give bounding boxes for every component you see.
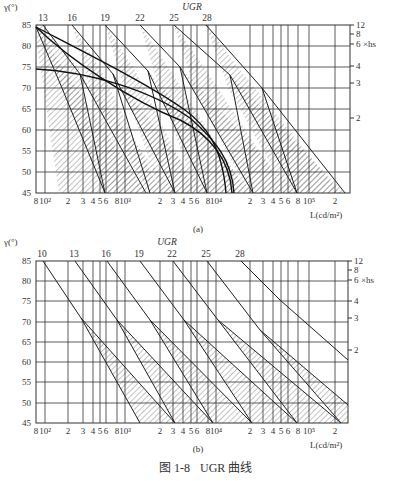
- svg-text:4: 4: [181, 196, 186, 206]
- svg-text:6: 6: [354, 275, 359, 285]
- svg-text:80: 80: [22, 41, 32, 51]
- right-axis-b: 12 8 6 ×hs 4 3 2: [348, 256, 375, 355]
- svg-text:3: 3: [81, 196, 86, 206]
- svg-text:2: 2: [66, 196, 71, 206]
- figure-caption: 图 1-8 UGR 曲线: [159, 461, 252, 475]
- panel-label-a: (a): [193, 224, 203, 234]
- svg-text:3: 3: [261, 196, 266, 206]
- svg-text:2: 2: [356, 113, 361, 123]
- svg-text:60: 60: [22, 357, 32, 367]
- svg-text:2: 2: [248, 196, 253, 206]
- svg-text:3: 3: [171, 196, 176, 206]
- ugr-label: 16: [67, 13, 77, 23]
- svg-text:45: 45: [22, 418, 32, 428]
- svg-text:4: 4: [91, 426, 96, 436]
- svg-text:10³: 10³: [119, 426, 131, 436]
- svg-text:5: 5: [279, 426, 284, 436]
- svg-text:55: 55: [22, 146, 32, 156]
- svg-text:5: 5: [279, 196, 284, 206]
- right-axis-label: ×hs: [363, 39, 377, 49]
- svg-text:10²: 10²: [39, 196, 51, 206]
- svg-text:45: 45: [22, 188, 32, 198]
- ugr-axis-label: UGR: [182, 2, 202, 12]
- ugr-label: 19: [100, 13, 110, 23]
- svg-text:65: 65: [22, 337, 32, 347]
- svg-text:6: 6: [286, 196, 291, 206]
- svg-text:4: 4: [356, 61, 361, 71]
- svg-text:70: 70: [22, 317, 32, 327]
- right-axis-a: 12 8 6 ×hs 4 3 2: [350, 20, 377, 123]
- ugr-label: 13: [38, 13, 48, 23]
- svg-text:80: 80: [22, 276, 32, 286]
- svg-text:2: 2: [333, 426, 338, 436]
- svg-text:2: 2: [158, 196, 163, 206]
- svg-text:70: 70: [22, 83, 32, 93]
- svg-text:60: 60: [22, 125, 32, 135]
- x-ticks-b: 8 10² 2 3 4 5 6 8 10³ 2 3 4 5 6 8 10⁴ 2 …: [34, 426, 338, 436]
- svg-text:6: 6: [195, 426, 200, 436]
- x-ticks-a: 8 10² 2 3 4 5 6 8 10³ 2 3 4 5 6 8 10⁴ 2 …: [34, 196, 338, 206]
- svg-text:10⁵: 10⁵: [303, 426, 315, 436]
- svg-text:8: 8: [296, 196, 301, 206]
- y-ticks: 85 80 75 70 65 60 55 50 45: [22, 256, 32, 428]
- svg-text:10³: 10³: [119, 196, 131, 206]
- svg-text:19: 19: [134, 249, 144, 259]
- svg-text:16: 16: [101, 249, 111, 259]
- svg-text:4: 4: [181, 426, 186, 436]
- svg-text:5: 5: [189, 426, 194, 436]
- panel-b: γ(°) UGR 10 13 16 19 22 25 28 85 80 75 7…: [3, 237, 375, 454]
- svg-text:6: 6: [104, 426, 109, 436]
- svg-text:6: 6: [356, 39, 361, 49]
- svg-text:5: 5: [98, 196, 103, 206]
- svg-text:8: 8: [34, 426, 39, 436]
- svg-text:65: 65: [22, 104, 32, 114]
- panel-label-b: (b): [193, 444, 204, 454]
- x-axis-label: L(cd/m²): [310, 210, 342, 220]
- ugr-axis-label: UGR: [157, 237, 177, 247]
- svg-text:50: 50: [22, 167, 32, 177]
- ugr-label: 22: [135, 13, 145, 23]
- ugr-labels: 10 13 16 19 22 25 28: [37, 249, 245, 259]
- svg-text:75: 75: [22, 296, 32, 306]
- svg-text:4: 4: [354, 296, 359, 306]
- y-axis-label: γ(°): [3, 237, 18, 247]
- svg-text:10⁴: 10⁴: [210, 196, 222, 206]
- svg-text:8: 8: [296, 426, 301, 436]
- caption-number: 图 1-8: [159, 461, 190, 475]
- svg-text:6: 6: [195, 196, 200, 206]
- ugr-label: 28: [202, 13, 212, 23]
- svg-text:10: 10: [37, 249, 47, 259]
- svg-text:6: 6: [104, 196, 109, 206]
- svg-text:8: 8: [354, 265, 359, 275]
- ugr-label: 25: [169, 13, 179, 23]
- svg-text:4: 4: [91, 196, 96, 206]
- svg-text:85: 85: [22, 20, 32, 30]
- svg-text:25: 25: [201, 249, 211, 259]
- svg-text:2: 2: [248, 426, 253, 436]
- svg-text:3: 3: [171, 426, 176, 436]
- svg-text:3: 3: [356, 78, 361, 88]
- svg-text:13: 13: [69, 249, 79, 259]
- svg-text:4: 4: [271, 426, 276, 436]
- caption-title: UGR 曲线: [200, 461, 252, 475]
- svg-text:8: 8: [356, 29, 361, 39]
- svg-text:2: 2: [354, 345, 359, 355]
- svg-text:75: 75: [22, 62, 32, 72]
- svg-text:3: 3: [354, 313, 359, 323]
- svg-text:5: 5: [98, 426, 103, 436]
- y-axis-label: γ(°): [3, 2, 18, 12]
- svg-text:3: 3: [81, 426, 86, 436]
- svg-text:8: 8: [34, 196, 39, 206]
- svg-text:2: 2: [158, 426, 163, 436]
- y-ticks: 85 80 75 70 65 60 55 50 45: [22, 20, 32, 198]
- svg-text:4: 4: [271, 196, 276, 206]
- svg-text:55: 55: [22, 377, 32, 387]
- svg-text:10⁴: 10⁴: [210, 426, 222, 436]
- svg-text:6: 6: [286, 426, 291, 436]
- ugr-figure: γ(°) UGR 13 16 19 22 25 28 85 80 75 70 6…: [0, 0, 395, 481]
- svg-text:5: 5: [189, 196, 194, 206]
- svg-text:2: 2: [66, 426, 71, 436]
- x-axis-label: L(cd/m²): [310, 440, 342, 450]
- right-axis-label: ×hs: [361, 275, 375, 285]
- svg-text:50: 50: [22, 398, 32, 408]
